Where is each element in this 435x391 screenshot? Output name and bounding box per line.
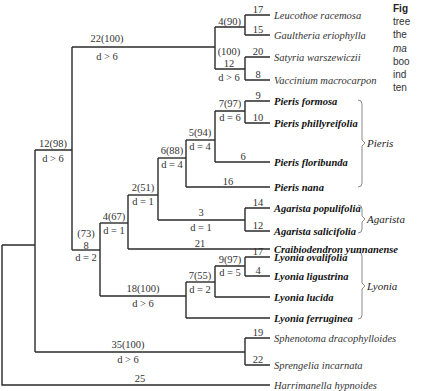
taxon-label: Leucothoe racemosa: [274, 10, 361, 21]
node-d-label: d > 6: [96, 51, 118, 62]
branch-length: 16: [223, 176, 234, 187]
branch-length: 19: [253, 327, 264, 338]
branch-length: 12: [253, 220, 264, 231]
node-support-label: (73): [77, 228, 95, 239]
caption-line: ten: [393, 81, 435, 94]
node-support-label: (100): [218, 46, 241, 57]
node-length-label: 3: [198, 207, 203, 218]
taxon-label: Sphenotoma dracophylloides: [274, 333, 396, 344]
branch-length: 10: [253, 112, 264, 123]
node-length-label: 12: [224, 58, 235, 69]
node-support-label: 4(67): [103, 211, 126, 222]
branch-length: 9: [255, 90, 260, 101]
taxon-label: Pieris nana: [274, 182, 324, 193]
node-d-label: d > 6: [132, 298, 154, 309]
caption-line: ma: [393, 42, 435, 55]
taxon-label: Vaccinium macrocarpon: [274, 75, 377, 86]
node-d-label: d = 4: [161, 159, 183, 170]
node-d-label: d = 2: [189, 284, 211, 295]
node-support-label: 4(90): [218, 16, 241, 27]
taxon-label: Sprengelia incarnata: [274, 360, 363, 371]
taxon-label: Gaultheria eriophylla: [274, 30, 366, 41]
taxon-label: Pieris formosa: [274, 96, 337, 107]
node-support-label: 18(100): [126, 283, 159, 294]
pieris-bracket: [358, 100, 365, 187]
branch-length: 14: [253, 197, 264, 208]
node-d-label: d = 1: [103, 225, 125, 236]
taxon-label: Lyonia ferruginea: [274, 313, 353, 324]
node-support-label: 9(97): [219, 254, 242, 265]
node-d-label: d = 2: [75, 252, 97, 263]
node-length-label: 25: [135, 373, 146, 384]
node-support-label: 6(88): [161, 145, 184, 156]
node-support-label: 22(100): [90, 33, 123, 44]
taxon-label: Agarista salicifolia: [274, 226, 356, 237]
node-d-label: d = 6: [219, 112, 241, 123]
branch-length: 22: [253, 354, 264, 365]
taxon-label: Lyonia ovalifolia: [274, 252, 347, 263]
node-support-label: 35(100): [111, 339, 144, 350]
node-d-label: d > 6: [117, 354, 139, 365]
taxon-label: Lyonia lucida: [274, 292, 333, 303]
taxon-label: Lyonia ligustrina: [274, 271, 349, 282]
node-d-label: d = 1: [132, 196, 154, 207]
branch-length: 6: [240, 151, 245, 162]
branch-length: 21: [195, 238, 206, 249]
branch-length: 20: [253, 46, 264, 57]
caption-line: the: [393, 28, 435, 41]
node-support-label: 5(94): [189, 127, 212, 138]
branch-length: 4: [255, 265, 260, 276]
genus-label-agarista: Agarista: [367, 213, 405, 225]
caption-line: boo: [393, 55, 435, 68]
node-support-label: 7(55): [189, 270, 212, 281]
node-d-label: d = 1: [190, 222, 212, 233]
taxon-label: Agarista populifolia: [274, 203, 361, 214]
taxon-label: Pieris floribunda: [274, 157, 348, 168]
figure-caption: Fig tree the ma boo ind ten: [393, 2, 435, 94]
caption-line: tree: [393, 15, 435, 28]
branch-length: 15: [253, 24, 264, 35]
node-d-label: d > 6: [218, 72, 240, 83]
taxon-label: Harrimanella hypnoides: [274, 380, 377, 391]
node-support-label: 2(51): [132, 182, 155, 193]
caption-line: ind: [393, 68, 435, 81]
caption-line: Fig: [393, 2, 435, 15]
branch-length: 17: [253, 4, 264, 15]
node-length-label: 8: [83, 240, 88, 251]
lyonia-bracket: [358, 252, 365, 319]
genus-label-pieris: Pieris: [367, 137, 393, 149]
node-d-label: d = 5: [219, 267, 241, 278]
node-support-label: 12(98): [39, 138, 67, 149]
node-d-label: d > 6: [42, 153, 64, 164]
branch-length: 17: [253, 246, 264, 257]
taxon-label: Pieris phillyreifolia: [274, 118, 358, 129]
branch-length: 8: [255, 69, 260, 80]
taxon-label: Satyria warszewiczii: [274, 52, 361, 63]
genus-label-lyonia: Lyonia: [367, 280, 397, 292]
node-support-label: 7(97): [219, 98, 242, 109]
node-d-label: d = 4: [189, 141, 211, 152]
